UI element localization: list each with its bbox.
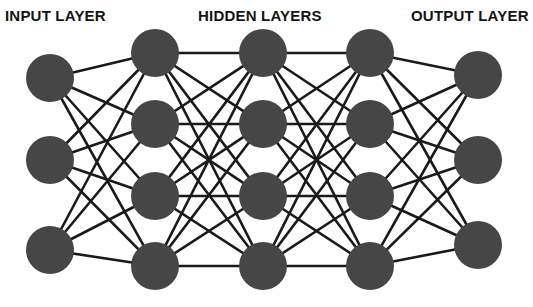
network-graph	[0, 0, 533, 307]
node-hidden-layer-2-3	[239, 172, 287, 220]
node-output-layer-2	[454, 136, 502, 184]
node-hidden-layer-1-4	[131, 242, 179, 290]
input-layer-label: INPUT LAYER	[5, 7, 106, 25]
edges-group	[50, 53, 478, 266]
node-output-layer-3	[454, 221, 502, 269]
node-hidden-layer-1-2	[131, 100, 179, 148]
node-input-layer-3	[26, 226, 74, 274]
neural-network-diagram: INPUT LAYER HIDDEN LAYERS OUTPUT LAYER	[0, 0, 533, 307]
node-input-layer-1	[26, 54, 74, 102]
node-hidden-layer-2-4	[239, 242, 287, 290]
node-hidden-layer-3-4	[346, 242, 394, 290]
node-hidden-layer-1-1	[131, 29, 179, 77]
node-hidden-layer-2-2	[239, 100, 287, 148]
node-output-layer-1	[454, 51, 502, 99]
node-input-layer-2	[26, 136, 74, 184]
node-hidden-layer-2-1	[239, 29, 287, 77]
hidden-layers-label: HIDDEN LAYERS	[198, 7, 322, 25]
output-layer-label: OUTPUT LAYER	[411, 7, 529, 25]
node-hidden-layer-1-3	[131, 172, 179, 220]
node-hidden-layer-3-1	[346, 29, 394, 77]
node-hidden-layer-3-3	[346, 172, 394, 220]
node-hidden-layer-3-2	[346, 100, 394, 148]
